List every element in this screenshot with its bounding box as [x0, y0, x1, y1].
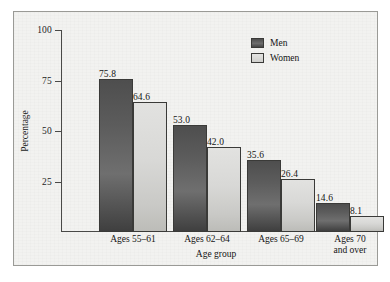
y-axis-line [61, 30, 62, 232]
x-tick-label-ages-55-61: Ages 55–61 [91, 234, 175, 245]
bar-men-ages-65-69[interactable]: 35.6 [247, 160, 281, 232]
bar-group-ages-62-64: 53.0 42.0 Ages 62–64 [173, 30, 241, 232]
bar-value-women-ages-65-69: 26.4 [281, 169, 298, 179]
bar-women-ages-55-61[interactable]: 64.6 [133, 102, 167, 233]
bar-value-men-ages-55-61: 75.8 [99, 69, 116, 79]
x-axis-title: Age group [61, 249, 371, 259]
bar-group-ages-55-61: 75.8 64.6 Ages 55–61 [99, 30, 167, 232]
legend-label-men: Men [270, 38, 287, 48]
bar-women-ages-65-69[interactable]: 26.4 [281, 179, 315, 232]
bar-men-ages-70-and-over[interactable]: 14.6 [316, 203, 350, 233]
bar-men-ages-62-64[interactable]: 53.0 [173, 125, 207, 232]
y-axis-title: Percentage [20, 110, 30, 152]
y-tick-label-25: 25 [42, 177, 52, 187]
legend-label-women: Women [270, 53, 299, 63]
chart-legend: Men Women [251, 35, 299, 65]
plot-area: 100 75 50 25 Percentage 75.8 64.6 Ages 5… [61, 30, 371, 232]
y-tick-label-75: 75 [42, 76, 52, 86]
y-tick-label-50: 50 [42, 126, 52, 136]
bar-value-women-ages-55-61: 64.6 [133, 92, 150, 102]
legend-swatch-women-icon [251, 53, 264, 63]
legend-item-men[interactable]: Men [251, 35, 299, 50]
bar-value-men-ages-70-and-over: 14.6 [316, 193, 333, 203]
y-tick-label-100: 100 [37, 25, 52, 35]
bar-group-ages-70-and-over: 14.6 8.1 Ages 70 and over [316, 30, 384, 232]
bar-women-ages-62-64[interactable]: 42.0 [207, 147, 241, 232]
legend-swatch-men-icon [251, 38, 264, 48]
bar-men-ages-55-61[interactable]: 75.8 [99, 79, 133, 232]
bar-women-ages-70-and-over[interactable]: 8.1 [350, 216, 384, 232]
bar-value-women-ages-70-and-over: 8.1 [350, 206, 362, 216]
legend-item-women[interactable]: Women [251, 50, 299, 65]
bar-value-women-ages-62-64: 42.0 [207, 137, 224, 147]
x-tick-label-ages-62-64: Ages 62–64 [165, 234, 249, 245]
chart-figure: 100 75 50 25 Percentage 75.8 64.6 Ages 5… [13, 11, 378, 266]
bar-value-men-ages-65-69: 35.6 [247, 150, 264, 160]
bar-value-men-ages-62-64: 53.0 [173, 115, 190, 125]
